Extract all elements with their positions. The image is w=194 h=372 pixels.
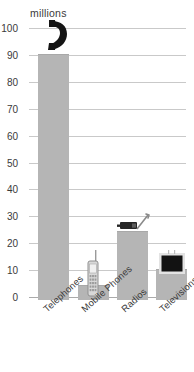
y-tick-label-80: 80: [0, 76, 18, 87]
y-tick-label-90: 90: [0, 49, 18, 60]
plot-area: 100 90 80 70 60 50 40 30 20 10 0: [29, 28, 186, 300]
y-tick-label-10: 10: [0, 265, 18, 276]
telephone-handset-icon: [45, 19, 71, 51]
y-tick-label-100: 100: [0, 23, 18, 34]
y-tick-label-50: 50: [0, 157, 18, 168]
y-tick-label-20: 20: [0, 238, 18, 249]
y-axis-unit-label: millions: [30, 7, 67, 19]
y-tick-label-60: 60: [0, 130, 18, 141]
bar-telephones[interactable]: [38, 54, 69, 300]
y-tick-label-40: 40: [0, 184, 18, 195]
y-tick-label-0: 0: [0, 292, 18, 303]
television-icon: [157, 250, 187, 278]
bar-chart: millions 100 90 80 70 60 50 40 30 20 10 …: [0, 0, 194, 372]
radio-icon: [117, 213, 151, 233]
y-tick-label-70: 70: [0, 103, 18, 114]
y-tick-label-30: 30: [0, 211, 18, 222]
